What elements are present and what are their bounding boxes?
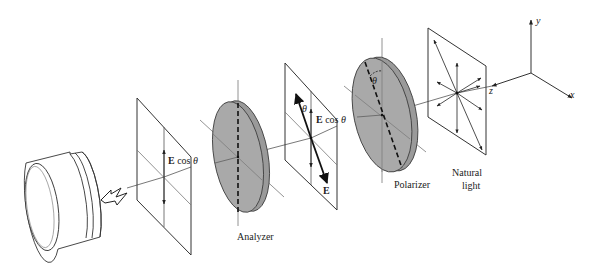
natural-light-label-line2: light xyxy=(462,180,481,191)
polarizer-label: Polarizer xyxy=(394,179,431,190)
polarizer: θ xyxy=(343,38,428,183)
x-axis-line xyxy=(531,73,572,98)
natural-light-label-line1: Natural xyxy=(452,167,482,178)
z-axis-line xyxy=(492,73,531,86)
e-vector-label: E xyxy=(323,185,330,196)
analyzer xyxy=(200,80,284,226)
polarization-diagram: y z x Natural light xyxy=(0,0,590,263)
polarizer-theta-label: θ xyxy=(372,75,377,86)
detector-cylinder xyxy=(20,152,101,262)
coordinate-axes: y z x xyxy=(488,15,575,100)
natural-light-plane xyxy=(428,28,486,155)
left-e-cos-theta-label: E cos θ xyxy=(168,155,198,166)
mid-theta-label: θ xyxy=(302,103,307,114)
y-axis-label: y xyxy=(535,15,541,26)
mid-e-cos-theta-label: E cos θ xyxy=(316,114,346,125)
output-light-arrow-icon xyxy=(101,188,127,205)
analyzer-label: Analyzer xyxy=(237,231,274,242)
analyzer-output-plane xyxy=(137,98,191,255)
x-axis-label: x xyxy=(569,89,575,100)
